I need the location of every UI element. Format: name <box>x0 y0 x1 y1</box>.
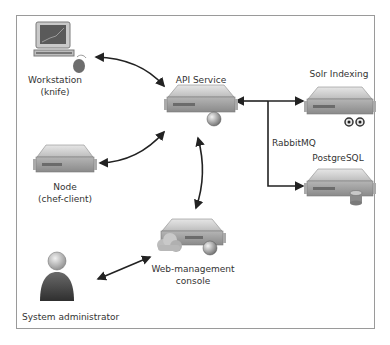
connections <box>0 0 390 345</box>
webui-title: Web-management <box>150 263 236 275</box>
edge-node-api <box>100 132 164 163</box>
server-icon-api <box>164 85 238 126</box>
edge-admin-webui <box>98 257 150 279</box>
label-workstation: Workstation (knife) <box>25 74 85 98</box>
api-title: API Service <box>170 74 232 86</box>
server-icon-postgres <box>304 169 376 206</box>
server-icon-node <box>33 145 97 172</box>
node-subtitle: (chef-client) <box>30 193 100 205</box>
solr-title: Solr Indexing <box>305 68 373 80</box>
edge-webui-api <box>196 138 202 208</box>
binoculars-icon <box>345 118 364 126</box>
postgres-title: PostgreSQL <box>305 152 371 164</box>
label-postgres: PostgreSQL <box>305 152 371 164</box>
rabbitmq-title: RabbitMQ <box>272 137 322 149</box>
edge-workstation-api <box>96 57 164 86</box>
label-api: API Service <box>170 74 232 86</box>
desktop-computer-icon <box>34 22 86 73</box>
server-icon-webui <box>157 219 226 255</box>
label-admin: System administrator <box>22 311 116 323</box>
label-webui: Web-management console <box>150 263 236 287</box>
database-icon <box>350 191 362 206</box>
node-title: Node <box>30 181 100 193</box>
workstation-subtitle: (knife) <box>25 86 85 98</box>
webui-subtitle: console <box>150 275 236 287</box>
label-solr: Solr Indexing <box>305 68 373 80</box>
workstation-title: Workstation <box>25 74 85 86</box>
person-icon <box>40 252 74 301</box>
label-node: Node (chef-client) <box>30 181 100 205</box>
label-rabbitmq: RabbitMQ <box>272 137 322 149</box>
admin-title: System administrator <box>22 311 116 323</box>
server-icon-solr <box>304 87 376 126</box>
